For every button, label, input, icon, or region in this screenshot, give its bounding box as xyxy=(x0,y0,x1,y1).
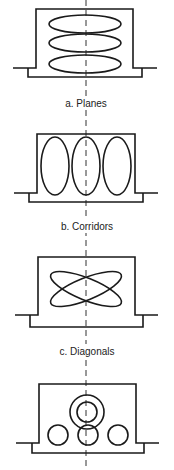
panel-d-circles xyxy=(16,384,159,453)
plane-ellipse-2 xyxy=(49,34,121,52)
panel-a-planes: a. Planes xyxy=(13,9,157,110)
small-circle-left xyxy=(48,425,68,445)
small-circle-center xyxy=(78,425,98,445)
corridor-ellipse-3 xyxy=(103,137,131,195)
panel-label-b: b. Corridors xyxy=(61,221,113,232)
plane-ellipse-3 xyxy=(49,55,121,73)
panel-label-a: a. Planes xyxy=(65,98,107,109)
room-outline-a xyxy=(13,9,157,77)
corridor-ellipse-1 xyxy=(41,137,69,195)
outer-ring-circle xyxy=(70,395,104,429)
panel-label-c: c. Diagonals xyxy=(59,346,114,357)
inner-ring-circle xyxy=(77,402,97,422)
small-circle-right xyxy=(108,425,128,445)
plane-ellipse-1 xyxy=(49,15,121,33)
spatial-pattern-diagram: a. Planes b. Corridors c. Diagonals xyxy=(0,0,174,470)
